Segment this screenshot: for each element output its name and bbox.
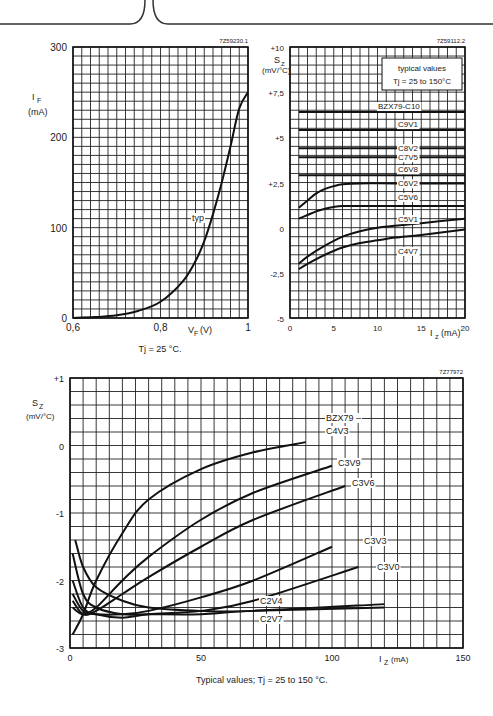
y-axis-label: S (32, 398, 38, 408)
series-label: C6V8 (398, 165, 419, 174)
datasheet-charts: 7Z59230.10,60,810100200300IF(mA)VF (V)ty… (0, 0, 493, 716)
svg-text:(mA): (mA) (441, 328, 461, 338)
series-label: C3V6 (352, 478, 375, 488)
series-label: C3V9 (338, 458, 361, 468)
y-tick-label: 0 (61, 313, 67, 324)
series-label: BZX79 – (326, 413, 361, 423)
y-tick-label: +2,5 (268, 180, 284, 189)
series-label: C7V5 (398, 153, 419, 162)
y-axis-label: I (32, 92, 35, 102)
x-tick-label: 20 (461, 324, 470, 333)
series-label: C6V2 (398, 179, 419, 188)
x-tick-label: 0 (67, 653, 72, 663)
y-axis-unit: (mV/°C) (26, 412, 55, 421)
svg-text:Z: Z (435, 334, 439, 340)
x-axis-label: I (430, 328, 433, 338)
figure-code: 7Z59230.1 (219, 38, 248, 44)
x-tick-label: 0,6 (66, 322, 80, 333)
y-axis-label: S (274, 55, 280, 65)
x-axis-label: I (379, 654, 382, 664)
x-tick-label: 5 (332, 324, 337, 333)
y-tick-label: -2,5 (270, 270, 284, 279)
series-label: C8V2 (398, 144, 419, 153)
series-label: C2V4 (260, 596, 283, 606)
forward-characteristic-chart: 7Z59230.10,60,810100200300IF(mA)VF (V)ty… (28, 38, 251, 354)
y-tick-label: -5 (277, 315, 285, 324)
temp-coefficient-low-chart: 7Z77972050100150-3-2-10+1SZ(mV/°C)IZ (mA… (26, 369, 471, 685)
series-label: C3V0 (377, 562, 400, 572)
y-tick-label: -1 (56, 509, 64, 519)
y-tick-label: 200 (50, 132, 67, 143)
series-label: C2V7 (260, 614, 283, 624)
series-curve-c5v6 (299, 206, 465, 219)
series-curve-c6v2 (299, 183, 465, 207)
y-tick-label: +7,5 (268, 89, 284, 98)
series-curve-c5v1 (299, 219, 465, 264)
x-tick-label: 150 (455, 653, 470, 663)
temp-coefficient-high-chart: 7Z59112.205101520-5-2,50+2,5+5+7,5+10SZ(… (262, 38, 470, 340)
y-tick-label: 300 (50, 42, 67, 53)
page-tab-border (0, 0, 493, 24)
series-curve-c4v7 (299, 229, 465, 269)
series-label: C9V1 (398, 120, 419, 129)
svg-text:Z: Z (39, 403, 44, 410)
y-axis-unit: (mV/°C) (262, 66, 291, 75)
y-tick-label: +5 (275, 134, 285, 143)
figure-code: 7Z77972 (439, 369, 463, 375)
series-label: C3V3 (364, 536, 387, 546)
series-label: C5V6 (398, 193, 419, 202)
x-tick-label: 0,8 (154, 322, 168, 333)
x-tick-label: 0 (288, 324, 293, 333)
x-tick-label: 1 (245, 322, 251, 333)
series-label: BZX79-C10 (378, 102, 420, 111)
x-tick-label: 100 (324, 653, 339, 663)
y-tick-label: 0 (280, 225, 285, 234)
legend-line: Tj = 25 to 150°C (393, 77, 451, 86)
series-curve-c2v4 (75, 540, 384, 612)
svg-text:Z: Z (384, 659, 389, 666)
x-tick-label: 10 (373, 324, 382, 333)
series-label: C5V1 (398, 215, 419, 224)
svg-text:(V): (V) (200, 325, 212, 335)
svg-text:F: F (194, 330, 198, 337)
y-tick-label: +10 (270, 44, 284, 53)
series-label: C4V3 (326, 426, 349, 436)
legend-line: typical values (398, 64, 446, 73)
x-tick-label: 50 (196, 653, 206, 663)
y-tick-label: -2 (56, 577, 64, 587)
series-label: typ (192, 213, 204, 223)
figure-code: 7Z59112.2 (437, 38, 466, 44)
svg-text:F: F (37, 97, 41, 104)
y-tick-label: +1 (54, 374, 64, 384)
series-label: C4V7 (398, 247, 419, 256)
chart-caption: Typical values; Tj = 25 to 150 °C. (196, 675, 328, 685)
grid (70, 378, 463, 648)
y-tick-label: 100 (50, 223, 67, 234)
chart-caption: Tj = 25 °C. (139, 344, 182, 354)
y-tick-label: -3 (56, 644, 64, 654)
x-tick-label: 15 (417, 324, 426, 333)
y-axis-unit: (mA) (28, 107, 48, 117)
svg-text:(mA): (mA) (391, 655, 409, 664)
y-tick-label: 0 (59, 442, 64, 452)
